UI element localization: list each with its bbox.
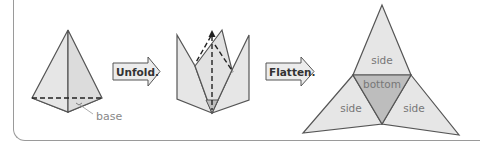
net-center-label: bottom bbox=[363, 78, 401, 90]
net-top-label: side bbox=[371, 54, 393, 66]
unfold-arrow: Unfold. bbox=[113, 57, 160, 86]
pyramid-left-face bbox=[32, 30, 68, 112]
pyramid-net: side bottom side side bbox=[303, 5, 459, 135]
base-label: base bbox=[96, 110, 122, 123]
net-right-label: side bbox=[403, 102, 425, 114]
pyramid-right-face bbox=[68, 30, 102, 112]
flatten-arrow: Flatten. bbox=[266, 57, 315, 86]
arrowhead-up-icon bbox=[209, 30, 216, 37]
unfolded-pyramid bbox=[177, 30, 249, 113]
net-left-label: side bbox=[340, 102, 362, 114]
triangular-pyramid: base bbox=[32, 30, 122, 123]
flatten-label: Flatten. bbox=[269, 66, 315, 78]
pyramid-net-diagram: base Unfold. Flatten. side bottom side s… bbox=[0, 0, 480, 144]
base-leader-line bbox=[80, 105, 93, 114]
unfold-label: Unfold. bbox=[116, 66, 159, 78]
